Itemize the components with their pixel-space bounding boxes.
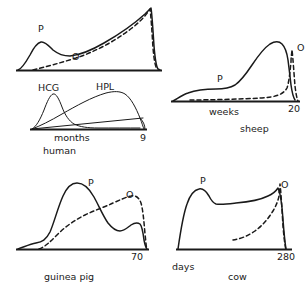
panel-label-guinea-pig: guinea pig: [44, 272, 94, 282]
axis-tick-cow-280: 280: [277, 252, 295, 262]
curve-label-cow-o: O: [281, 180, 288, 190]
curve-label-sheep-p: P: [217, 74, 223, 84]
panel-label-sheep: sheep: [240, 124, 269, 134]
curve-human-o: [33, 9, 157, 70]
curve-sheep-p: [173, 42, 295, 101]
panel-cow: [177, 184, 291, 250]
curve-cow-o: [233, 184, 286, 250]
curve-label-hpl: HPL: [96, 82, 114, 92]
axis-tick-human-9: 9: [140, 133, 146, 143]
curve-label-cow-p: P: [200, 176, 206, 186]
panel-human-proteins: [31, 92, 146, 130]
axis-label-human-months: months: [54, 133, 90, 143]
curve-cow-p: [178, 188, 286, 249]
panel-label-cow: cow: [228, 272, 247, 282]
curve-label-guineapig-o: O: [126, 190, 133, 200]
curve-guineapig-o: [39, 196, 147, 249]
axis-tick-guineapig-70: 70: [131, 252, 143, 262]
hormone-curves-figure: P O HCG HPL months 9 human P O weeks 20 …: [0, 0, 308, 291]
curve-label-guineapig-p: P: [88, 178, 94, 188]
axis-tick-sheep-20: 20: [288, 104, 300, 114]
curve-human-p: [18, 8, 160, 70]
panel-label-human: human: [43, 146, 76, 156]
curve-label-hcg: HCG: [38, 83, 59, 93]
panel-sheep: [172, 42, 299, 102]
curve-label-human-p: P: [38, 24, 44, 34]
curve-label-sheep-o: O: [297, 43, 304, 53]
axis-label-sheep-weeks: weeks: [209, 107, 239, 117]
curve-label-human-o: O: [72, 52, 79, 62]
axis-label-cow-days: days: [172, 262, 194, 272]
panel-human-steroids: [17, 8, 161, 71]
